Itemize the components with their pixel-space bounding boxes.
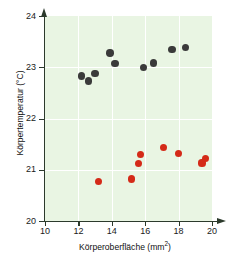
gridline-vertical — [179, 16, 180, 221]
data-point-red — [202, 155, 209, 162]
y-axis-tick-mark — [39, 67, 44, 68]
scatter-chart-figure: 2021222324101214161820 Körpertemperatur … — [0, 0, 246, 255]
gridline-vertical — [212, 16, 213, 221]
data-point-dark — [85, 77, 92, 84]
data-point-dark — [106, 49, 113, 56]
x-axis-tick-label: 14 — [100, 227, 124, 236]
gridline-vertical — [112, 16, 113, 221]
gridline-vertical — [78, 16, 79, 221]
x-axis-arrow-icon — [217, 218, 226, 224]
x-axis-line — [44, 221, 219, 222]
x-axis-tick-label: 18 — [167, 227, 191, 236]
data-point-dark — [140, 64, 147, 71]
y-axis-tick-mark — [39, 170, 44, 171]
data-point-dark — [150, 59, 157, 66]
data-point-dark — [168, 46, 175, 53]
y-axis-title: Körpertemperatur (°C) — [15, 33, 25, 193]
gridline-horizontal — [45, 170, 212, 171]
y-axis-tick-label: 20 — [0, 217, 36, 226]
y-axis-tick-label: 24 — [0, 12, 36, 21]
x-axis-tick-label: 12 — [66, 227, 90, 236]
x-axis-title-base: Körperoberfläche (mm — [79, 242, 165, 252]
y-axis-line — [44, 16, 45, 222]
x-axis-tick-label: 20 — [200, 227, 224, 236]
data-point-dark — [91, 70, 98, 77]
x-axis-title-close: ) — [168, 242, 171, 252]
data-point-red — [128, 175, 135, 182]
y-axis-tick-mark — [39, 221, 44, 222]
y-axis-tick-mark — [39, 119, 44, 120]
gridline-horizontal — [45, 119, 212, 120]
x-axis-tick-label: 10 — [33, 227, 57, 236]
x-axis-title: Körperoberfläche (mm2) — [30, 240, 220, 252]
gridline-horizontal — [45, 67, 212, 68]
data-point-red — [137, 151, 144, 158]
gridline-vertical — [145, 16, 146, 221]
x-axis-tick-label: 16 — [133, 227, 157, 236]
y-axis-tick-mark — [39, 16, 44, 17]
